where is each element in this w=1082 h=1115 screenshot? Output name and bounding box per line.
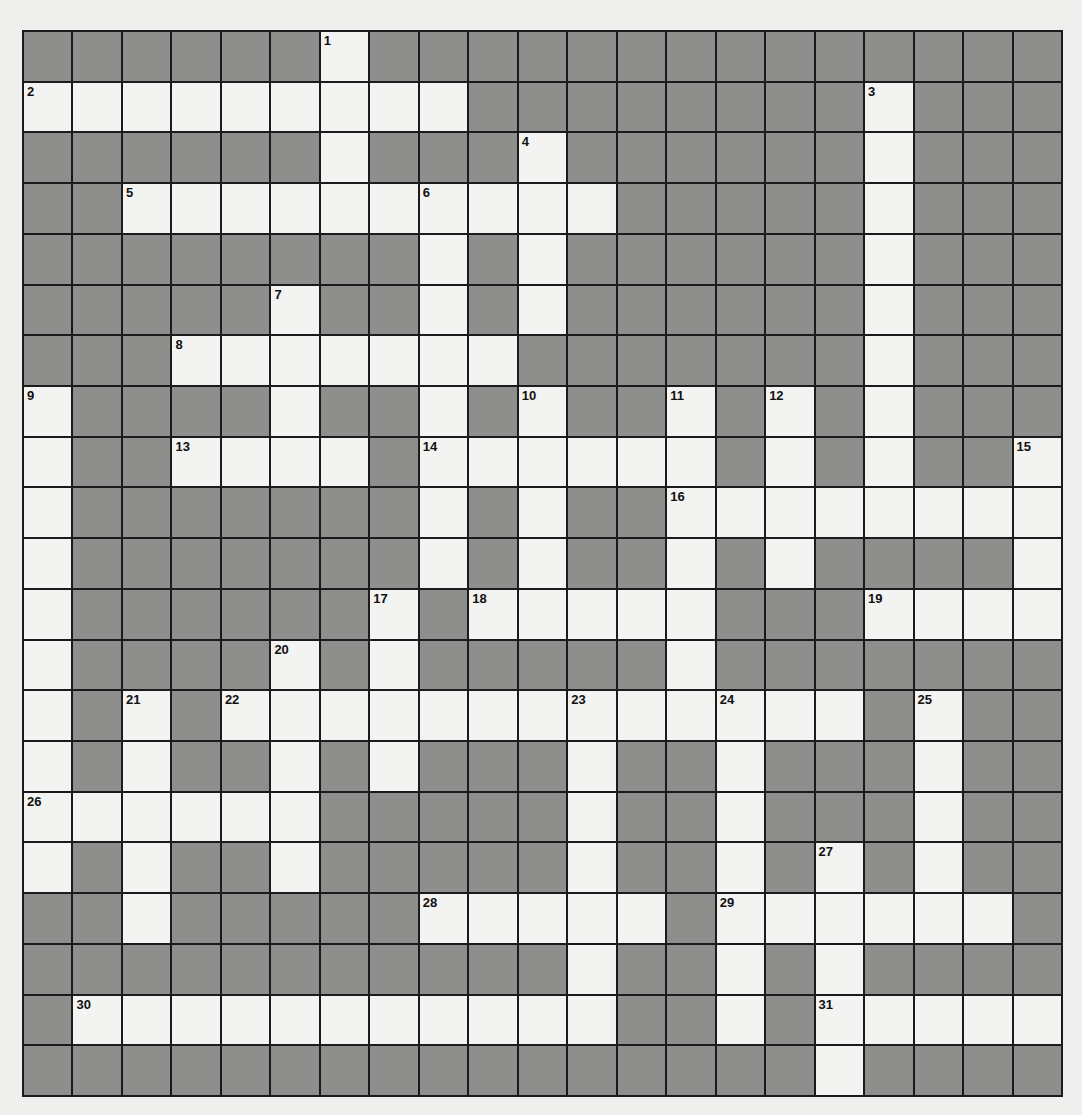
- answer-cell[interactable]: 12: [766, 387, 813, 436]
- answer-cell[interactable]: [24, 843, 71, 892]
- answer-cell[interactable]: [816, 691, 863, 740]
- answer-cell[interactable]: [24, 742, 71, 791]
- answer-cell[interactable]: [271, 336, 318, 385]
- answer-cell[interactable]: 5: [123, 184, 170, 233]
- answer-cell[interactable]: [222, 438, 269, 487]
- answer-cell[interactable]: [420, 387, 467, 436]
- answer-cell[interactable]: [321, 184, 368, 233]
- answer-cell[interactable]: [469, 438, 516, 487]
- answer-cell[interactable]: [123, 843, 170, 892]
- answer-cell[interactable]: 15: [1014, 438, 1061, 487]
- answer-cell[interactable]: [865, 387, 912, 436]
- answer-cell[interactable]: [24, 539, 71, 588]
- answer-cell[interactable]: 22: [222, 691, 269, 740]
- answer-cell[interactable]: 7: [271, 286, 318, 335]
- answer-cell[interactable]: [667, 590, 714, 639]
- answer-cell[interactable]: [271, 742, 318, 791]
- answer-cell[interactable]: [1014, 488, 1061, 537]
- answer-cell[interactable]: [568, 438, 615, 487]
- answer-cell[interactable]: [370, 742, 417, 791]
- answer-cell[interactable]: 9: [24, 387, 71, 436]
- answer-cell[interactable]: [519, 286, 566, 335]
- answer-cell[interactable]: [568, 945, 615, 994]
- answer-cell[interactable]: [519, 691, 566, 740]
- answer-cell[interactable]: 13: [172, 438, 219, 487]
- answer-cell[interactable]: [469, 894, 516, 943]
- answer-cell[interactable]: [123, 793, 170, 842]
- answer-cell[interactable]: 28: [420, 894, 467, 943]
- answer-cell[interactable]: [370, 691, 417, 740]
- answer-cell[interactable]: [766, 894, 813, 943]
- answer-cell[interactable]: [717, 996, 764, 1045]
- answer-cell[interactable]: [271, 83, 318, 132]
- answer-cell[interactable]: [568, 894, 615, 943]
- answer-cell[interactable]: [24, 641, 71, 690]
- answer-cell[interactable]: [915, 894, 962, 943]
- answer-cell[interactable]: 27: [816, 843, 863, 892]
- answer-cell[interactable]: [172, 793, 219, 842]
- answer-cell[interactable]: 10: [519, 387, 566, 436]
- answer-cell[interactable]: [667, 438, 714, 487]
- answer-cell[interactable]: [618, 691, 665, 740]
- answer-cell[interactable]: [717, 793, 764, 842]
- answer-cell[interactable]: [816, 894, 863, 943]
- answer-cell[interactable]: [667, 641, 714, 690]
- answer-cell[interactable]: 20: [271, 641, 318, 690]
- answer-cell[interactable]: [469, 184, 516, 233]
- answer-cell[interactable]: [865, 488, 912, 537]
- answer-cell[interactable]: 1: [321, 32, 368, 81]
- answer-cell[interactable]: [420, 539, 467, 588]
- answer-cell[interactable]: [717, 488, 764, 537]
- answer-cell[interactable]: [271, 793, 318, 842]
- answer-cell[interactable]: [865, 438, 912, 487]
- answer-cell[interactable]: [816, 1046, 863, 1095]
- answer-cell[interactable]: [816, 945, 863, 994]
- answer-cell[interactable]: [717, 843, 764, 892]
- answer-cell[interactable]: [1014, 539, 1061, 588]
- answer-cell[interactable]: [519, 438, 566, 487]
- answer-cell[interactable]: 4: [519, 133, 566, 182]
- answer-cell[interactable]: 6: [420, 184, 467, 233]
- answer-cell[interactable]: 11: [667, 387, 714, 436]
- answer-cell[interactable]: [816, 488, 863, 537]
- answer-cell[interactable]: [420, 691, 467, 740]
- answer-cell[interactable]: [420, 336, 467, 385]
- answer-cell[interactable]: [964, 488, 1011, 537]
- answer-cell[interactable]: [370, 641, 417, 690]
- answer-cell[interactable]: [123, 83, 170, 132]
- answer-cell[interactable]: [964, 996, 1011, 1045]
- answer-cell[interactable]: [915, 843, 962, 892]
- answer-cell[interactable]: 25: [915, 691, 962, 740]
- answer-cell[interactable]: [766, 539, 813, 588]
- answer-cell[interactable]: [420, 83, 467, 132]
- answer-cell[interactable]: [618, 590, 665, 639]
- answer-cell[interactable]: [271, 843, 318, 892]
- answer-cell[interactable]: [519, 184, 566, 233]
- answer-cell[interactable]: [24, 438, 71, 487]
- answer-cell[interactable]: 14: [420, 438, 467, 487]
- answer-cell[interactable]: [964, 894, 1011, 943]
- answer-cell[interactable]: [123, 996, 170, 1045]
- answer-cell[interactable]: [1014, 996, 1061, 1045]
- answer-cell[interactable]: [321, 996, 368, 1045]
- answer-cell[interactable]: [865, 235, 912, 284]
- answer-cell[interactable]: [24, 691, 71, 740]
- answer-cell[interactable]: [865, 894, 912, 943]
- answer-cell[interactable]: [766, 691, 813, 740]
- answer-cell[interactable]: [964, 590, 1011, 639]
- answer-cell[interactable]: 29: [717, 894, 764, 943]
- answer-cell[interactable]: [172, 83, 219, 132]
- answer-cell[interactable]: [865, 133, 912, 182]
- answer-cell[interactable]: 17: [370, 590, 417, 639]
- answer-cell[interactable]: 8: [172, 336, 219, 385]
- answer-cell[interactable]: [370, 83, 417, 132]
- answer-cell[interactable]: [420, 286, 467, 335]
- answer-cell[interactable]: [469, 691, 516, 740]
- answer-cell[interactable]: 21: [123, 691, 170, 740]
- answer-cell[interactable]: [271, 438, 318, 487]
- answer-cell[interactable]: [519, 590, 566, 639]
- answer-cell[interactable]: [370, 996, 417, 1045]
- answer-cell[interactable]: [370, 336, 417, 385]
- answer-cell[interactable]: [123, 742, 170, 791]
- answer-cell[interactable]: [222, 184, 269, 233]
